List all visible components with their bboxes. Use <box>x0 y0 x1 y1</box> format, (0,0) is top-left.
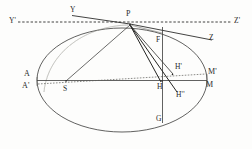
secondary-axis-A2M2 <box>38 74 206 84</box>
point-S <box>65 80 67 82</box>
orbit-ellipse <box>37 28 207 132</box>
label-h-double-prime: H'' <box>176 91 185 99</box>
label-h: H <box>157 83 163 91</box>
chord-P-H <box>130 25 161 82</box>
chord-P-Hpp <box>130 25 177 92</box>
label-s: S <box>63 85 67 93</box>
point-P <box>129 24 131 26</box>
label-z-prime: Z' <box>234 17 240 25</box>
label-m-prime: M' <box>208 68 217 76</box>
label-f: F <box>156 36 160 44</box>
label-y-prime: Y' <box>9 17 16 25</box>
label-p: P <box>126 10 131 18</box>
inner-arc <box>44 25 128 92</box>
point-Hp <box>172 74 174 76</box>
chord-P-Hp <box>130 25 173 74</box>
label-m: M <box>206 81 213 89</box>
label-g: G <box>156 115 162 123</box>
label-z: Z <box>209 34 214 42</box>
tangent-line-YZ <box>72 16 130 25</box>
chord-P-S <box>66 25 130 81</box>
label-y: Y <box>70 6 76 14</box>
diagram-canvas: Y' Y P Z' Z F A A' S H H' H'' M M' G <box>0 0 252 149</box>
label-a-prime: A' <box>22 82 30 90</box>
label-a: A <box>24 70 30 78</box>
label-h-prime: H' <box>175 63 182 71</box>
